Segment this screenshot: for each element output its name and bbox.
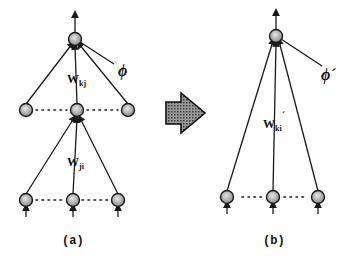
bias-edge xyxy=(281,39,322,66)
edge-input-output xyxy=(227,41,273,191)
input-node xyxy=(312,191,325,204)
hidden-node xyxy=(122,104,135,117)
transform-arrow-icon xyxy=(166,93,205,133)
output-node xyxy=(69,33,82,46)
edge-hidden-output xyxy=(26,44,72,104)
weight-label-kj: Wkj xyxy=(67,72,86,88)
input-node xyxy=(112,194,125,207)
input-node xyxy=(20,194,33,207)
caption-a: (a) xyxy=(62,234,84,248)
caption-b: (b) xyxy=(263,234,285,248)
input-node xyxy=(67,194,80,207)
bias-label-phi-prime: ϕ´ xyxy=(321,66,336,84)
panel-a: Wkj Wji ϕ (a) xyxy=(20,14,135,248)
network-reduction-diagram: Wkj Wji ϕ (a) Wki´ ϕ´ (b) xyxy=(0,0,356,262)
hidden-node xyxy=(71,104,84,117)
output-node xyxy=(270,30,283,43)
edge-input-hidden xyxy=(80,118,118,194)
hidden-node xyxy=(20,104,33,117)
bias-edge xyxy=(80,42,114,64)
input-node xyxy=(221,191,234,204)
panel-b: Wki´ ϕ´ (b) xyxy=(221,12,337,248)
weight-label-ji: Wji xyxy=(67,155,85,171)
bias-label-phi: ϕ xyxy=(118,62,127,80)
input-node xyxy=(267,191,280,204)
